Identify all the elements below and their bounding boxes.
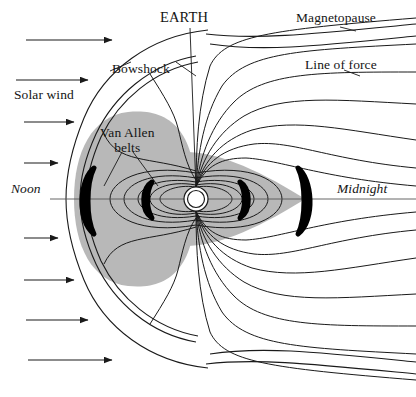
label-van-allen-line2: belts [114,140,140,155]
label-line-of-force: Line of force [305,57,377,72]
label-earth: EARTH [160,9,208,25]
earth-globe [184,187,208,211]
label-midnight: Midnight [337,181,387,196]
bowshock-leader-right [176,62,196,76]
label-van-allen-belts: Van Allen belts [100,125,155,155]
label-magnetopause: Magnetopause [296,10,376,25]
label-bowshock: Bowshock [112,61,170,76]
label-solar-wind: Solar wind [14,87,74,102]
label-van-allen-line1: Van Allen [100,125,155,140]
magnetosphere-diagram: EARTH Magnetopause Line of force Bowshoc… [0,0,416,397]
label-noon: Noon [11,181,41,196]
